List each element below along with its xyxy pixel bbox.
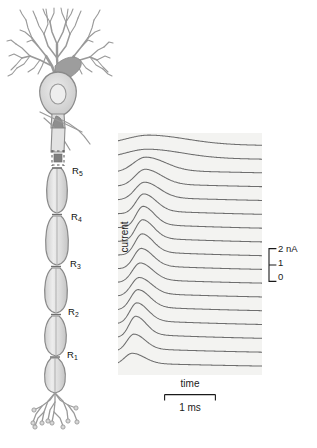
trace-line bbox=[118, 290, 262, 311]
axon-break-marker bbox=[54, 154, 62, 162]
internode-2 bbox=[45, 316, 67, 356]
current-trace-panel bbox=[118, 133, 262, 375]
trace-line bbox=[118, 206, 262, 228]
current-scalebar bbox=[268, 248, 277, 282]
myelinated-axon bbox=[45, 168, 69, 393]
trace-line bbox=[118, 220, 262, 242]
time-axis-label: time bbox=[158, 378, 222, 390]
time-scalebar bbox=[164, 394, 216, 401]
trace-line bbox=[118, 135, 262, 145]
current-tick-2na: 2 nA bbox=[278, 244, 298, 254]
trace-line bbox=[118, 263, 262, 283]
node-label-r3: R3 bbox=[70, 259, 81, 269]
trace-line bbox=[118, 353, 262, 366]
neuron-illustration bbox=[0, 0, 118, 440]
trace-line bbox=[118, 157, 262, 173]
trace-lines bbox=[118, 135, 262, 366]
node-label-r1: R1 bbox=[67, 350, 78, 360]
trace-line bbox=[118, 303, 262, 325]
neuron-diagram: R5 R4 R3 R2 R1 bbox=[0, 0, 118, 440]
axon-initial-segment bbox=[51, 128, 65, 152]
figure-root: R5 R4 R3 R2 R1 current time 1 ms 2 nA 1 … bbox=[0, 0, 317, 448]
trace-line bbox=[118, 248, 262, 269]
node-label-r5: R5 bbox=[72, 166, 83, 176]
trace-line bbox=[118, 278, 262, 297]
trace-line bbox=[118, 149, 262, 159]
trace-line bbox=[118, 234, 262, 256]
nucleus bbox=[50, 84, 66, 104]
node-label-r2: R2 bbox=[68, 307, 79, 317]
current-tick-1: 1 bbox=[278, 258, 283, 268]
time-scale-value: 1 ms bbox=[158, 402, 222, 414]
current-axis-label: current bbox=[118, 207, 132, 267]
trace-line bbox=[118, 194, 262, 214]
trace-line bbox=[118, 316, 262, 338]
node-label-r4: R4 bbox=[71, 212, 82, 222]
current-tick-0: 0 bbox=[278, 272, 283, 282]
current-traces bbox=[118, 133, 262, 375]
